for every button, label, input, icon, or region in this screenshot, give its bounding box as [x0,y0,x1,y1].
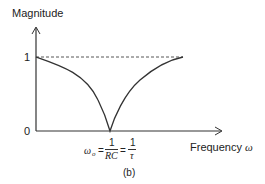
magnitude-curve [36,57,183,131]
figure-caption: (b) [123,168,135,178]
equals-1: = [98,146,104,156]
y-tick-one: 1 [24,52,30,63]
omega-symbol: ω [84,146,91,156]
fraction-1-denominator: RC [105,151,118,161]
fraction-2-numerator: 1 [130,138,136,148]
fraction-2-denominator: τ [130,151,134,161]
y-axis-label: Magnitude [12,8,63,19]
x-axis-label: Frequency ω [190,142,253,153]
fraction-1-numerator: 1 [109,138,115,148]
x-axis-symbol: ω [245,141,253,153]
omega-subscript: o [92,151,96,158]
equals-2: = [120,146,126,156]
x-axis-label-text: Frequency [190,141,242,153]
y-tick-zero: 0 [24,126,30,137]
